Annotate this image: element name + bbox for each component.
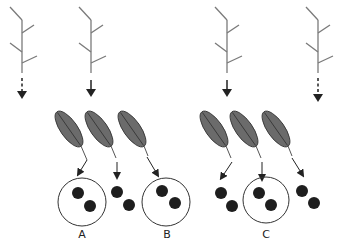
dot <box>84 200 96 212</box>
plant-1 <box>10 7 37 99</box>
arrow-head-icon <box>17 91 27 99</box>
free-dots-1 <box>111 186 135 211</box>
plant-2 <box>79 7 106 97</box>
cell-C <box>243 177 289 223</box>
arrow-head-icon <box>313 94 323 102</box>
plant-3 <box>215 7 242 97</box>
seed-group-left <box>50 107 157 176</box>
free-dots-2 <box>215 187 238 212</box>
free-dots-3 <box>296 185 320 209</box>
arrow-head-icon <box>86 89 96 97</box>
dot <box>72 187 84 199</box>
seed-6 <box>257 107 302 174</box>
cell-B <box>142 178 190 226</box>
diagram-canvas <box>0 0 340 250</box>
seed-2 <box>80 107 118 176</box>
seed-4 <box>195 107 233 177</box>
seed-3 <box>113 107 157 174</box>
label-C: C <box>256 229 276 241</box>
seed-1 <box>50 107 88 173</box>
cell-A <box>58 178 106 226</box>
diagram: A B C <box>0 0 340 250</box>
arrow-head-icon <box>222 89 232 97</box>
label-B: B <box>157 229 177 241</box>
label-A: A <box>72 229 92 241</box>
plant-4 <box>306 7 333 102</box>
seed-5 <box>225 107 263 178</box>
seed-group-right <box>195 107 302 178</box>
